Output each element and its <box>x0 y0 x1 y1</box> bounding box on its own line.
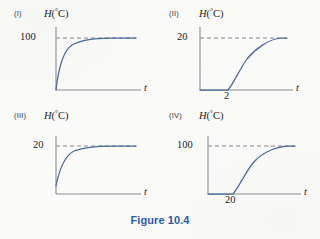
figure-caption: Figure 10.4 <box>0 214 320 226</box>
x-axis-label-i: t <box>144 82 147 93</box>
panel-label-iv: (IV) <box>169 111 182 120</box>
y-tick-label-i: 100 <box>20 31 36 42</box>
panel-label-i: (I) <box>14 9 22 18</box>
x-tick-label-ii: 2 <box>224 90 229 101</box>
curve-iii <box>56 146 136 186</box>
chart-panel-ii: (II) H(°C) 20 2 t <box>155 6 315 110</box>
x-axis-label-ii: t <box>296 82 299 93</box>
x-axis-label-iii: t <box>144 186 147 197</box>
figure-page: (I) H(°C) 100 t (II) H(°C) <box>0 0 320 239</box>
chart-panel-i: (I) H(°C) 100 t <box>0 6 160 110</box>
panel-grid: (I) H(°C) 100 t (II) H(°C) <box>0 0 320 239</box>
y-tick-label-iii: 20 <box>33 139 44 150</box>
chart-panel-iii: (III) H(°C) 20 t <box>0 108 160 212</box>
y-tick-label-iv: 100 <box>177 139 193 150</box>
y-axis-label-iii: H(°C) <box>44 109 69 121</box>
curve-ii <box>200 38 287 90</box>
y-tick-label-ii: 20 <box>177 31 188 42</box>
y-axis-label-i: H(°C) <box>44 7 69 19</box>
chart-panel-iv: (IV) H(°C) 100 20 t <box>155 108 315 212</box>
panel-label-ii: (II) <box>169 9 179 18</box>
plot-area-iii <box>0 120 160 212</box>
panel-label-iii: (III) <box>14 111 26 120</box>
x-tick-label-iv: 20 <box>225 194 236 205</box>
curve-iv <box>208 146 295 194</box>
x-axis-label-iv: t <box>304 186 307 197</box>
y-axis-label-iv: H(°C) <box>199 109 224 121</box>
curve-i <box>56 38 136 90</box>
y-axis-label-ii: H(°C) <box>199 7 224 19</box>
